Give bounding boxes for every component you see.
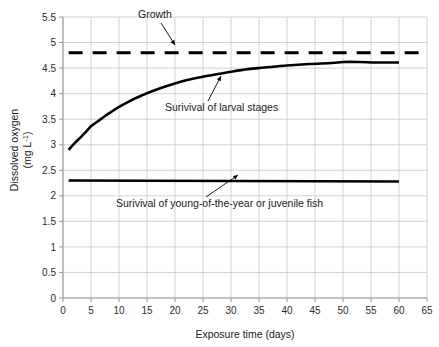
x-tick-label: 0	[60, 305, 66, 316]
x-tick-label: 35	[253, 305, 265, 316]
x-tick-label: 50	[337, 305, 349, 316]
x-tick-label: 10	[113, 305, 125, 316]
annotation-label-2: Surivival of young-of-the-year or juveni…	[116, 197, 323, 209]
x-axis-title: Exposure time (days)	[195, 328, 294, 340]
y-tick-label: 0.5	[42, 267, 56, 278]
y-tick-label: 5	[50, 37, 56, 48]
y-tick-label: 5.5	[42, 12, 56, 23]
chart-figure: 00.511.522.533.544.555.50510152025303540…	[0, 0, 439, 347]
x-tick-label: 20	[169, 305, 181, 316]
x-tick-label: 30	[225, 305, 237, 316]
y-tick-label: 4.5	[42, 63, 56, 74]
x-tick-label: 25	[197, 305, 209, 316]
y-tick-label: 3	[50, 139, 56, 150]
x-tick-label: 60	[393, 305, 405, 316]
series-line-2	[69, 180, 399, 181]
y-tick-label: 1	[50, 242, 56, 253]
x-tick-label: 45	[309, 305, 321, 316]
y-tick-label: 2	[50, 190, 56, 201]
y-tick-label: 1.5	[42, 216, 56, 227]
annotation-label-1: Surivival of larval stages	[165, 101, 278, 113]
x-tick-label: 65	[421, 305, 433, 316]
x-tick-label: 5	[88, 305, 94, 316]
x-tick-label: 15	[141, 305, 153, 316]
y-tick-label: 3.5	[42, 114, 56, 125]
y-tick-label: 2.5	[42, 165, 56, 176]
x-tick-label: 40	[281, 305, 293, 316]
y-tick-label: 0	[50, 293, 56, 304]
dissolved-oxygen-line-chart: 00.511.522.533.544.555.50510152025303540…	[0, 0, 439, 347]
y-axis-title-line1: Dissolved oxygen	[8, 109, 20, 191]
x-tick-label: 55	[365, 305, 377, 316]
annotation-label-0: Growth	[138, 8, 172, 20]
y-tick-label: 4	[50, 88, 56, 99]
